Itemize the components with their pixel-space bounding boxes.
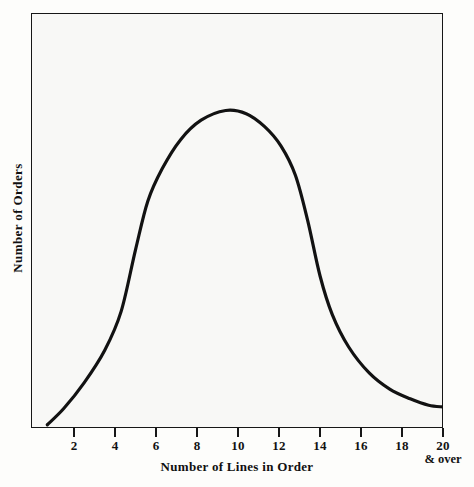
x-axis-ticks: 2468101214161820 [0, 428, 474, 458]
x-tick-mark-4 [114, 428, 116, 437]
x-tick-mark-12 [278, 428, 280, 437]
y-axis-title: Number of Orders [10, 148, 26, 288]
x-axis-over-note: & over [410, 452, 474, 467]
x-tick-mark-18 [401, 428, 403, 437]
x-tick-mark-6 [155, 428, 157, 437]
x-tick-mark-14 [319, 428, 321, 437]
x-tick-label-16: 16 [341, 438, 381, 454]
x-tick-label-8: 8 [177, 438, 217, 454]
x-tick-label-4: 4 [95, 438, 135, 454]
x-tick-mark-8 [196, 428, 198, 437]
x-tick-label-6: 6 [136, 438, 176, 454]
x-tick-label-14: 14 [300, 438, 340, 454]
x-tick-mark-16 [360, 428, 362, 437]
x-tick-label-12: 12 [259, 438, 299, 454]
chart-figure: 2468101214161820 Number of Lines in Orde… [0, 0, 474, 487]
x-tick-label-10: 10 [218, 438, 258, 454]
curve-layer [31, 13, 443, 428]
x-tick-mark-2 [73, 428, 75, 437]
x-tick-label-2: 2 [54, 438, 94, 454]
x-tick-mark-20 [442, 428, 444, 437]
x-tick-mark-10 [237, 428, 239, 437]
x-axis-title: Number of Lines in Order [31, 459, 443, 475]
data-curve-order-line-distribution [47, 110, 443, 425]
